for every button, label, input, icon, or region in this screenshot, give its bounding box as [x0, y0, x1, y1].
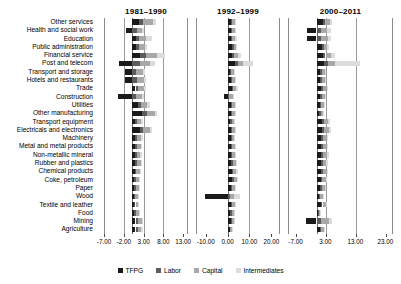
segment-intermediates — [243, 61, 253, 66]
legend-item: Intermediates — [236, 267, 284, 274]
bar-rows — [288, 18, 393, 234]
bar-row — [104, 159, 188, 167]
category-label: Health and social work — [0, 26, 96, 34]
bar-row — [288, 134, 393, 142]
legend-item: TFPG — [118, 267, 144, 274]
segment-intermediates — [324, 102, 325, 107]
segment-intermediates — [235, 152, 236, 157]
bar-row — [104, 109, 188, 117]
legend-label: Labor — [164, 267, 181, 274]
bar-row — [196, 126, 280, 134]
segment-intermediates — [235, 144, 236, 149]
bar-row — [104, 225, 188, 233]
category-label: Utilities — [0, 101, 96, 109]
segment-intermediates — [328, 119, 330, 124]
bar-row — [288, 18, 393, 26]
segment-tfpg — [132, 53, 141, 58]
bar-row — [288, 93, 393, 101]
segment-intermediates — [234, 194, 240, 199]
x-axis-tick-label: 13.00 — [342, 238, 370, 245]
segment-intermediates — [234, 119, 235, 124]
category-label: Coke, petroleum — [0, 176, 96, 184]
bar-row — [288, 51, 393, 59]
bar-row — [196, 118, 280, 126]
category-label: Transport and storage — [0, 68, 96, 76]
segment-intermediates — [141, 135, 143, 140]
segment-tfpg — [132, 111, 142, 116]
legend-label: TFPG — [126, 267, 144, 274]
bar-row — [196, 43, 280, 51]
segment-intermediates — [150, 127, 152, 132]
category-label: Electricals and electronics — [0, 126, 96, 134]
segment-intermediates — [327, 169, 329, 174]
segment-intermediates — [327, 152, 329, 157]
segment-intermediates — [329, 127, 331, 132]
segment-intermediates — [235, 185, 236, 190]
segment-tfpg — [119, 61, 131, 66]
category-label: Wood — [0, 192, 96, 200]
category-label: Post and telecom — [0, 59, 96, 67]
segment-intermediates — [236, 169, 237, 174]
segment-intermediates — [235, 202, 236, 207]
segment-intermediates — [235, 127, 236, 132]
segment-intermediates — [144, 86, 146, 91]
segment-intermediates — [142, 218, 144, 223]
segment-intermediates — [142, 28, 144, 33]
figure-stacked-bar-small-multiples: 1981–1990 1992–1999 2000–2011 Other serv… — [0, 0, 401, 284]
x-axis-tick — [356, 234, 357, 237]
segment-intermediates — [235, 28, 236, 33]
bar-row — [196, 26, 280, 34]
bar-row — [104, 26, 188, 34]
bar-row — [196, 134, 280, 142]
x-axis-tick — [206, 234, 207, 237]
segment-tfpg — [132, 19, 140, 24]
category-label: Non-metallic mineral — [0, 151, 96, 159]
bar-row — [196, 184, 280, 192]
category-label: Financial service — [0, 51, 96, 59]
bar-row — [196, 35, 280, 43]
segment-intermediates — [326, 160, 328, 165]
x-axis-tick — [386, 234, 387, 237]
segment-tfpg — [118, 94, 131, 99]
segment-intermediates — [140, 152, 141, 157]
panel-1992-1999 — [196, 18, 280, 234]
x-axis-tick — [271, 234, 272, 237]
bar-row — [104, 201, 188, 209]
segment-intermediates — [234, 135, 235, 140]
segment-intermediates — [328, 36, 331, 41]
segment-tfpg — [307, 28, 316, 33]
segment-tfpg — [306, 218, 317, 223]
x-axis-tick — [183, 234, 184, 237]
x-axis-tick — [249, 234, 250, 237]
segment-intermediates — [142, 94, 144, 99]
category-label: Trade — [0, 84, 96, 92]
x-axis-tick — [144, 234, 145, 237]
bar-row — [288, 209, 393, 217]
category-label: Construction — [0, 93, 96, 101]
x-axis-tick-label: 23.00 — [372, 238, 400, 245]
bar-row — [104, 209, 188, 217]
bar-row — [288, 35, 393, 43]
segment-intermediates — [327, 144, 329, 149]
segment-intermediates — [324, 227, 325, 232]
segment-capital — [137, 77, 144, 82]
bar-row — [104, 142, 188, 150]
category-label: Machinery — [0, 134, 96, 142]
bar-row — [104, 93, 188, 101]
category-axis-labels: Other servicesHealth and social workEduc… — [0, 18, 96, 234]
category-label: Mining — [0, 217, 96, 225]
segment-intermediates — [327, 28, 330, 33]
bar-row — [196, 51, 280, 59]
x-axis-tick — [104, 234, 105, 237]
bar-row — [288, 76, 393, 84]
legend: TFPGLaborCapitalIntermediates — [0, 264, 401, 276]
panel-title-1: 1981–1990 — [104, 6, 188, 17]
category-label: Education — [0, 35, 96, 43]
bar-row — [288, 26, 393, 34]
segment-tfpg — [205, 194, 228, 199]
bar-row — [288, 43, 393, 51]
bar-row — [288, 109, 393, 117]
bar-rows — [104, 18, 188, 234]
bar-row — [288, 225, 393, 233]
panel-title-2: 1992–1999 — [196, 6, 280, 17]
